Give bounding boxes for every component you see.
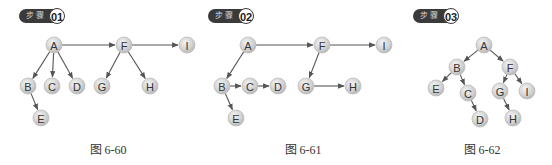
node-label: D (274, 81, 282, 93)
edge-G-H (503, 98, 509, 110)
node-label: G (98, 81, 107, 93)
node-label: B (24, 81, 31, 93)
node-label: H (509, 113, 517, 125)
node-label: E (232, 113, 239, 125)
edge-A-B (227, 52, 244, 79)
node-E: E (428, 80, 444, 96)
node-F: F (314, 37, 330, 53)
node-label: I (382, 40, 385, 52)
node-label: H (349, 81, 357, 93)
node-C: C (44, 78, 60, 94)
node-label: H (146, 81, 154, 93)
node-H: H (142, 78, 158, 94)
edge-A-D (58, 52, 73, 78)
edge-C-D (471, 100, 476, 111)
node-F: F (116, 37, 132, 53)
node-label: B (218, 81, 225, 93)
node-label: A (244, 40, 252, 52)
node-label: B (453, 62, 460, 74)
edge-A-B (33, 52, 50, 79)
node-E: E (33, 110, 49, 126)
node-label: A (480, 40, 488, 52)
edge-B-E (225, 93, 232, 109)
node-label: F (507, 62, 514, 74)
node-C: C (460, 85, 476, 101)
edge-F-I (515, 74, 522, 84)
edge-B-C (460, 74, 464, 84)
node-B: B (449, 59, 465, 75)
node-label: F (319, 40, 326, 52)
edge-B-E (442, 73, 451, 82)
node-label: C (48, 81, 56, 93)
node-label: I (525, 86, 528, 98)
figure-caption-1: 图 6-60 (90, 140, 127, 158)
node-label: A (50, 40, 58, 52)
edge-A-F (490, 50, 503, 61)
node-F: F (502, 59, 518, 75)
node-label: E (37, 113, 44, 125)
node-label: E (432, 83, 439, 95)
node-G: G (94, 78, 110, 94)
node-G: G (298, 78, 314, 94)
edge-A-B (464, 50, 478, 61)
figure-caption-2: 图 6-61 (285, 140, 322, 158)
node-E: E (228, 110, 244, 126)
node-H: H (345, 78, 361, 94)
edge-A-C (52, 53, 53, 77)
node-D: D (472, 111, 488, 127)
figure-caption-3: 图 6-62 (464, 140, 501, 158)
node-label: D (476, 114, 484, 126)
node-C: C (242, 78, 258, 94)
node-A: A (476, 37, 492, 53)
node-B: B (214, 78, 230, 94)
node-A: A (240, 37, 256, 53)
node-B: B (20, 78, 36, 94)
node-D: D (69, 78, 85, 94)
edge-B-E (31, 93, 38, 109)
edge-F-H (128, 52, 145, 79)
node-G: G (492, 83, 508, 99)
node-I: I (376, 37, 392, 53)
edge-F-G (503, 74, 506, 82)
node-I: I (179, 37, 195, 53)
node-label: C (464, 88, 472, 100)
node-I: I (519, 83, 535, 99)
node-H: H (505, 110, 521, 126)
edge-F-G (309, 52, 319, 77)
edge-F-G (106, 52, 120, 78)
node-label: G (496, 86, 505, 98)
node-label: I (185, 40, 188, 52)
node-label: D (73, 81, 81, 93)
node-D: D (270, 78, 286, 94)
node-label: G (302, 81, 311, 93)
node-label: F (121, 40, 128, 52)
node-A: A (46, 37, 62, 53)
node-label: C (246, 81, 254, 93)
